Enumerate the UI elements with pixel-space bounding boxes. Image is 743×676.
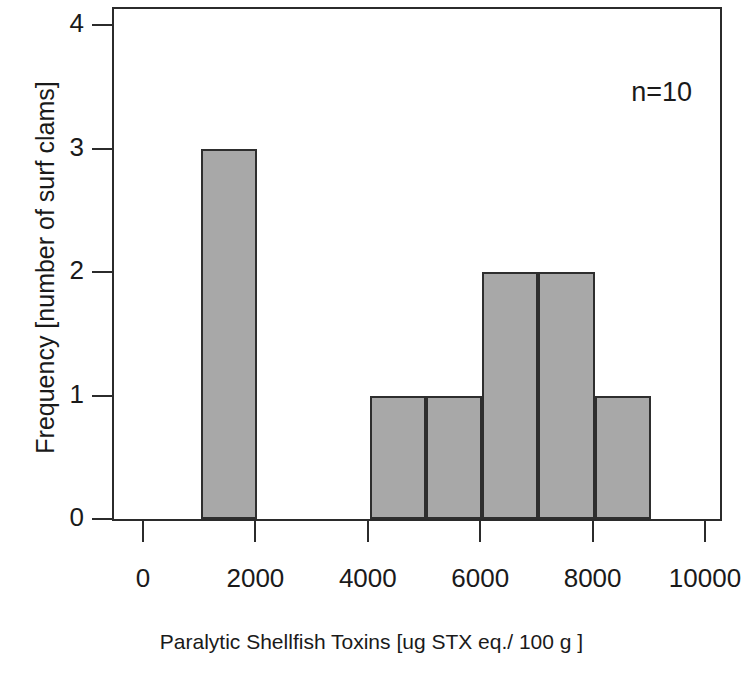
y-axis-tick (92, 271, 112, 273)
x-axis-title: Paralytic Shellfish Toxins [ug STX eq./ … (0, 630, 743, 654)
y-axis-tick (92, 395, 112, 397)
histogram-bar (426, 396, 482, 520)
x-axis-tick (142, 521, 144, 542)
y-axis-tick-label: 1 (38, 381, 84, 407)
y-axis-tick-label: 2 (38, 257, 84, 283)
sample-size-annotation: n=10 (631, 77, 692, 108)
x-axis-tick (592, 521, 594, 542)
x-axis-tick (479, 521, 481, 542)
y-axis-tick-label: 4 (38, 10, 84, 36)
y-axis-tick (92, 24, 112, 26)
histogram-bar (201, 149, 257, 520)
histogram-bar (538, 272, 594, 519)
histogram-bar (482, 272, 538, 519)
x-axis-tick (704, 521, 706, 542)
x-axis-tick-label: 10000 (635, 565, 743, 591)
y-axis-tick (92, 518, 112, 520)
y-axis-tick-label: 3 (38, 134, 84, 160)
y-axis-tick-label: 0 (38, 504, 84, 530)
histogram-figure: Frequency [number of surf clams] 01234 n… (0, 0, 743, 676)
y-axis-tick (92, 148, 112, 150)
histogram-bar (370, 396, 426, 520)
plot-area (114, 9, 720, 519)
x-axis-tick (254, 521, 256, 542)
histogram-bar (595, 396, 651, 520)
plot-frame: n=10 (112, 7, 722, 521)
x-axis-tick (367, 521, 369, 542)
